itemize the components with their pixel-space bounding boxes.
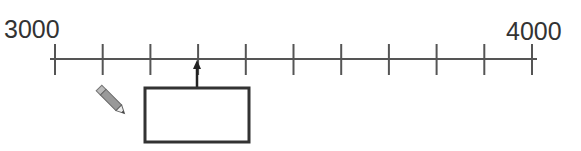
answer-box[interactable] bbox=[145, 88, 249, 142]
pencil-icon bbox=[96, 85, 127, 116]
arrow-pointer bbox=[193, 60, 201, 88]
number-line bbox=[50, 44, 537, 75]
number-line-diagram bbox=[0, 0, 581, 151]
